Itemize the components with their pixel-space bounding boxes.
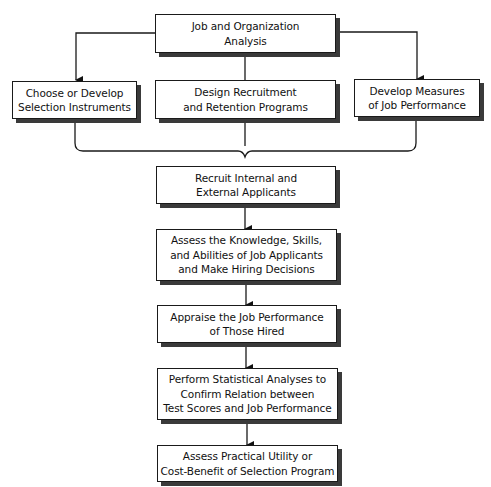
node-label: Choose or Develop Selection Instruments bbox=[18, 86, 131, 115]
edge-job-to-choose bbox=[76, 33, 155, 80]
flowchart-canvas: Job and Organization Analysis Choose or … bbox=[0, 0, 491, 487]
node-job-analysis: Job and Organization Analysis bbox=[155, 14, 336, 53]
node-label: Recruit Internal and External Applicants bbox=[195, 171, 297, 200]
node-label: Assess the Knowledge, Skills, and Abilit… bbox=[170, 233, 323, 277]
node-assess-utility: Assess Practical Utility or Cost-Benefit… bbox=[157, 445, 338, 482]
node-label: Appraise the Job Performance of Those Hi… bbox=[170, 310, 323, 339]
node-label: Develop Measures of Job Performance bbox=[368, 84, 466, 113]
node-label: Assess Practical Utility or Cost-Benefit… bbox=[161, 449, 335, 478]
node-recruit-applicants: Recruit Internal and External Applicants bbox=[156, 166, 336, 204]
node-appraise-performance: Appraise the Job Performance of Those Hi… bbox=[157, 305, 337, 343]
node-choose-instruments: Choose or Develop Selection Instruments bbox=[12, 81, 137, 119]
node-statistical-analyses: Perform Statistical Analyses to Confirm … bbox=[157, 368, 338, 420]
node-assess-ksa: Assess the Knowledge, Skills, and Abilit… bbox=[156, 229, 337, 281]
node-label: Design Recruitment and Retention Program… bbox=[183, 85, 308, 114]
node-develop-measures: Develop Measures of Job Performance bbox=[354, 79, 480, 117]
node-design-programs: Design Recruitment and Retention Program… bbox=[155, 80, 336, 119]
node-label: Perform Statistical Analyses to Confirm … bbox=[163, 372, 331, 416]
node-label: Job and Organization Analysis bbox=[192, 19, 300, 48]
edge-job-to-develop bbox=[336, 32, 417, 79]
